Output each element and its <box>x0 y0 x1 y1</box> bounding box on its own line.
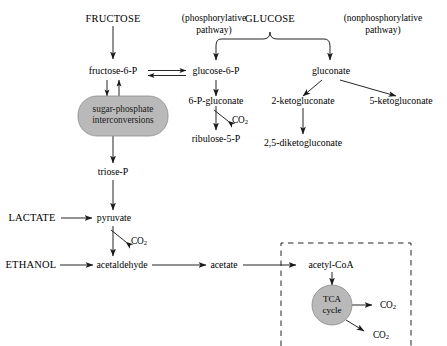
annotation-nonphosphorylative-pathway: (nonphosphorylative pathway) <box>344 13 423 36</box>
node-acetaldehyde: acetaldehyde <box>96 260 147 271</box>
tca-line-1: TCA <box>323 294 342 305</box>
node-fructose: FRUCTOSE <box>85 13 140 24</box>
node-pyruvate: pyruvate <box>97 213 131 224</box>
node-sugar-phosphate-interconversions: sugar-phosphate interconversions <box>92 104 153 127</box>
node-lactate: LACTATE <box>8 212 55 223</box>
arrow-tca-to-co2-lower <box>346 320 364 331</box>
label-co2-tca-lower: CO2 <box>373 330 389 341</box>
node-glucose-6-p: glucose-6-P <box>193 66 240 77</box>
node-tca-cycle: TCA cycle <box>323 294 342 316</box>
node-fructose-6-p: fructose-6-P <box>89 66 137 77</box>
node-6-p-gluconate: 6-P-gluconate <box>189 96 244 107</box>
node-ribulose-5-p: ribulose-5-P <box>192 134 240 145</box>
node-acetate: acetate <box>210 260 237 271</box>
node-5-ketogluconate: 5-ketogluconate <box>369 96 432 107</box>
phosphorylative-line-1: (phosphorylative <box>182 13 246 25</box>
node-glucose: GLUCOSE <box>245 13 295 24</box>
phosphorylative-line-2: pathway) <box>182 25 246 37</box>
node-ethanol: ETHANOL <box>6 259 57 270</box>
node-2-ketogluconate: 2-ketogluconate <box>271 96 334 107</box>
label-co2-pentose-pathway: CO2 <box>232 115 248 126</box>
nonphosphorylative-line-2: pathway) <box>344 25 423 37</box>
arrow-gluconate-to-5ketogluconate <box>340 80 396 96</box>
node-gluconate: gluconate <box>312 66 350 77</box>
node-acetyl-coa: acetyl-CoA <box>308 260 353 271</box>
label-co2-pyruvate: CO2 <box>131 236 147 247</box>
pathway-arrow-layer <box>0 0 447 346</box>
label-co2-tca-right: CO2 <box>380 300 396 311</box>
annotation-phosphorylative-pathway: (phosphorylative pathway) <box>182 13 246 36</box>
node-triose-p: triose-P <box>98 167 128 178</box>
sugar-phosphate-line-2: interconversions <box>92 115 153 126</box>
arrow-gluconate-to-2ketogluconate <box>303 80 322 96</box>
node-2-5-diketogluconate: 2,5-diketogluconate <box>264 138 342 149</box>
nonphosphorylative-line-1: (nonphosphorylative <box>344 13 423 25</box>
tca-line-2: cycle <box>323 305 342 316</box>
pathway-diagram-canvas: FRUCTOSE (phosphorylative pathway) GLUCO… <box>0 0 447 346</box>
sugar-phosphate-line-1: sugar-phosphate <box>92 104 153 115</box>
